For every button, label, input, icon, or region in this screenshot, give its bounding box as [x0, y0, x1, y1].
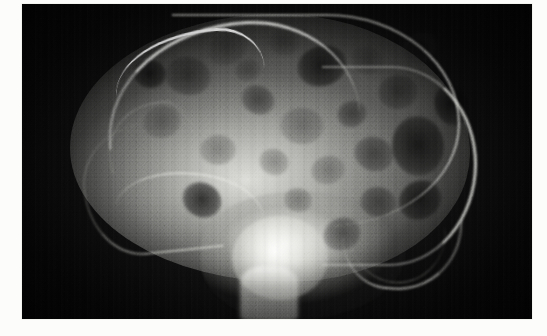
film-vignette: [22, 4, 532, 319]
lateral-skull-radiograph: [22, 4, 532, 319]
page-canvas: [0, 0, 547, 336]
